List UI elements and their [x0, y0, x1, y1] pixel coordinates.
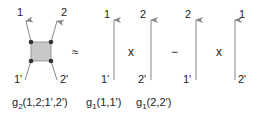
- propagator-arrow: 1 1': [101, 8, 114, 85]
- arrow-top-label: 1: [104, 8, 110, 20]
- vertex-dot: [29, 59, 34, 64]
- vertex-label-2: 2: [61, 6, 67, 18]
- vertex-label-1prime: 1': [14, 73, 22, 85]
- caption-g2: g2(1,2;1',2'): [12, 96, 68, 111]
- arrow-top-label: 2: [185, 8, 191, 20]
- times-symbol: x: [128, 45, 134, 59]
- caption-g1-a: g1(1,1'): [86, 96, 121, 111]
- caption-args: (2,2'): [147, 96, 172, 108]
- times-symbol: x: [216, 45, 222, 59]
- arrow-bottom-label: 2': [138, 73, 146, 85]
- diagram-canvas: 1 2 1' 2' ≈ 1 1' x 2 2' − 2 1' x 1 2' g2…: [0, 0, 259, 120]
- vertex-box: [31, 42, 51, 61]
- vertex-diagram: 1 2 1' 2': [14, 6, 68, 85]
- arrow-top-label: 2: [140, 8, 146, 20]
- leg-bottom-left: [25, 61, 31, 80]
- arrow-top-label: 1: [239, 8, 245, 20]
- propagator-arrow: 2 1': [183, 8, 196, 85]
- caption-args: (1,2;1',2'): [23, 96, 68, 108]
- approx-symbol: ≈: [72, 45, 79, 59]
- caption-args: (1,1'): [97, 96, 122, 108]
- propagator-arrow: 2 2': [138, 8, 151, 85]
- arrow-bottom-label: 1': [101, 73, 109, 85]
- vertex-dot: [29, 40, 34, 45]
- leg-bottom-right: [51, 61, 57, 80]
- leg-top-right: [51, 21, 57, 42]
- vertex-label-2prime: 2': [60, 73, 68, 85]
- vertex-dot: [49, 59, 54, 64]
- vertex-label-1: 1: [17, 6, 23, 18]
- leg-top-left: [26, 21, 31, 42]
- arrow-bottom-label: 2': [238, 73, 246, 85]
- arrow-bottom-label: 1': [183, 73, 191, 85]
- vertex-dot: [49, 40, 54, 45]
- propagator-arrow: 1 2': [235, 8, 246, 85]
- minus-symbol: −: [171, 45, 178, 59]
- caption-g1-b: g1(2,2'): [136, 96, 171, 111]
